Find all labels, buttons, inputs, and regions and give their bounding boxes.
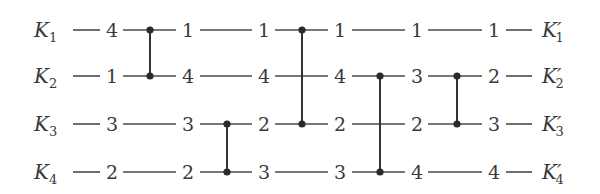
comparator-dot — [146, 72, 153, 79]
comparators — [146, 26, 460, 175]
value: 3 — [488, 113, 500, 135]
value: 2 — [106, 161, 118, 183]
comparator-dot — [223, 168, 230, 175]
value: 1 — [334, 19, 346, 41]
comparator-3-4 — [223, 120, 230, 175]
output-label-k3: K′3 — [541, 112, 564, 139]
comparator-dot — [298, 26, 305, 33]
value: 2 — [182, 161, 194, 183]
comparator-dot — [298, 120, 305, 127]
value: 4 — [258, 65, 270, 87]
comparator-dot — [376, 168, 383, 175]
value: 3 — [411, 65, 423, 87]
value: 3 — [106, 113, 118, 135]
value: 2 — [334, 113, 346, 135]
comparator-dot — [223, 120, 230, 127]
stage-0: 4 1 3 2 — [106, 19, 118, 183]
value: 4 — [182, 65, 194, 87]
value: 2 — [258, 113, 270, 135]
output-label-k4: K′4 — [541, 160, 564, 187]
stage-3: 1 4 2 3 — [334, 19, 346, 183]
input-label-k1: K1 — [33, 18, 57, 45]
value: 2 — [488, 65, 500, 87]
value: 3 — [258, 161, 270, 183]
sorting-network-diagram: K1 K2 K3 K4 — [0, 0, 600, 194]
value: 4 — [106, 19, 118, 41]
value: 1 — [106, 65, 118, 87]
stage-values: 4 1 3 2 1 4 3 2 1 4 2 3 1 4 2 3 1 3 — [106, 19, 500, 183]
stage-5: 1 2 3 4 — [488, 19, 500, 183]
output-label-k2: K′2 — [541, 64, 564, 91]
comparator-dot — [146, 26, 153, 33]
output-labels: K′1 K′2 K′3 K′4 — [541, 18, 564, 187]
stage-4: 1 3 2 4 — [411, 19, 423, 183]
input-labels: K1 K2 K3 K4 — [33, 18, 57, 187]
value: 1 — [182, 19, 194, 41]
output-label-k1: K′1 — [541, 18, 564, 45]
value: 3 — [334, 161, 346, 183]
comparator-dot — [453, 72, 460, 79]
value: 1 — [488, 19, 500, 41]
value: 1 — [411, 19, 423, 41]
value: 2 — [411, 113, 423, 135]
stage-1: 1 4 3 2 — [182, 19, 194, 183]
value: 1 — [258, 19, 270, 41]
comparator-1-3 — [298, 26, 305, 127]
input-label-k3: K3 — [33, 112, 57, 139]
value: 4 — [411, 161, 423, 183]
stage-2: 1 4 2 3 — [258, 19, 270, 183]
input-label-k4: K4 — [33, 160, 57, 187]
comparator-dot — [453, 120, 460, 127]
input-label-k2: K2 — [33, 64, 57, 91]
comparator-dot — [376, 72, 383, 79]
comparator-2-3 — [453, 72, 460, 127]
value: 4 — [334, 65, 346, 87]
value: 3 — [182, 113, 194, 135]
value: 4 — [488, 161, 500, 183]
comparator-1-2 — [146, 26, 153, 79]
